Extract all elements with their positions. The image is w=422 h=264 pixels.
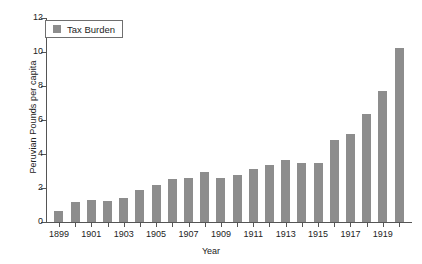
y-axis-line (46, 18, 47, 223)
y-tick-label: 2 (38, 182, 43, 192)
bar-1899 (54, 211, 63, 222)
x-tick-label-1911: 1911 (244, 229, 263, 239)
x-tick-mark-1917 (350, 223, 351, 227)
x-tick-mark-1918 (367, 223, 368, 227)
bar-1912 (265, 165, 274, 222)
x-tick-mark-1905 (156, 223, 157, 227)
x-tick-mark-1913 (286, 223, 287, 227)
x-tick-label-1917: 1917 (340, 229, 360, 239)
bar-1904 (135, 190, 144, 222)
bar-1909 (216, 178, 225, 222)
x-tick-label-1907: 1907 (178, 229, 198, 239)
plot-area: 024681012 189919011903190519071909191119… (46, 18, 412, 223)
x-tick-mark-1916 (334, 223, 335, 227)
bar-1919 (378, 91, 387, 222)
bar-1915 (314, 163, 323, 223)
bar-1911 (249, 169, 258, 222)
bar-1902 (103, 201, 112, 222)
x-tick-label-1919: 1919 (373, 229, 393, 239)
x-tick-label-1915: 1915 (308, 229, 328, 239)
x-tick-mark-1908 (205, 223, 206, 227)
y-tick-label: 10 (33, 46, 43, 56)
x-tick-mark-1911 (253, 223, 254, 227)
bar-1901 (87, 200, 96, 222)
x-tick-mark-1901 (91, 223, 92, 227)
x-tick-mark-1900 (75, 223, 76, 227)
x-tick-mark-1910 (237, 223, 238, 227)
x-axis-line (46, 222, 412, 223)
x-tick-label-1899: 1899 (49, 229, 69, 239)
x-tick-mark-1903 (124, 223, 125, 227)
bar-1906 (168, 179, 177, 222)
x-tick-mark-1899 (59, 223, 60, 227)
bar-1907 (184, 178, 193, 222)
x-axis-title: Year (0, 246, 422, 256)
bar-1905 (152, 185, 161, 222)
x-tick-label-1903: 1903 (114, 229, 134, 239)
bar-1910 (233, 175, 242, 222)
x-tick-mark-1920 (399, 223, 400, 227)
x-tick-mark-1915 (318, 223, 319, 227)
x-tick-mark-1907 (189, 223, 190, 227)
x-tick-mark-1909 (221, 223, 222, 227)
bar-1908 (200, 172, 209, 222)
bar-1918 (362, 114, 371, 222)
x-tick-mark-1904 (140, 223, 141, 227)
x-tick-label-1909: 1909 (211, 229, 231, 239)
x-tick-mark-1912 (269, 223, 270, 227)
bar-1900 (71, 202, 80, 222)
bar-1903 (119, 198, 128, 222)
x-tick-label-1905: 1905 (146, 229, 166, 239)
chart-legend: Tax Burden (45, 20, 123, 38)
x-tick-label-1901: 1901 (81, 229, 101, 239)
y-tick-label: 0 (38, 216, 43, 226)
y-tick-label: 8 (38, 80, 43, 90)
bar-chart-figure: Peruvian Pounds per capita 024681012 189… (0, 0, 422, 264)
bar-1920 (395, 48, 404, 222)
x-tick-mark-1906 (172, 223, 173, 227)
y-tick-label: 4 (38, 148, 43, 158)
legend-label-tax-burden: Tax Burden (67, 24, 115, 35)
x-tick-label-1913: 1913 (276, 229, 296, 239)
bar-1917 (346, 134, 355, 222)
bar-1913 (281, 160, 290, 222)
x-tick-mark-1919 (383, 223, 384, 227)
x-tick-mark-1914 (302, 223, 303, 227)
bar-1916 (330, 140, 339, 222)
y-tick-label: 6 (38, 114, 43, 124)
y-tick-label: 12 (33, 12, 43, 22)
x-tick-mark-1902 (108, 223, 109, 227)
legend-swatch-icon (53, 25, 61, 33)
bar-1914 (297, 163, 306, 223)
